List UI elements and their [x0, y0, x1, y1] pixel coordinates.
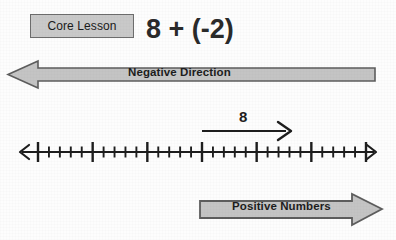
core-lesson-label: Core Lesson: [47, 19, 116, 33]
jump-arrow-label: 8: [239, 108, 247, 125]
number-line: -15-10-5051015: [0, 112, 396, 178]
core-lesson-badge: Core Lesson: [30, 14, 134, 38]
expression-text: 8 + (-2): [146, 13, 234, 45]
lesson-illustration: Core Lesson 8 + (-2) Negative Direction …: [0, 0, 396, 240]
positive-numbers-label: Positive Numbers: [232, 200, 331, 212]
number-line-axis: [0, 112, 396, 178]
negative-direction-label: Negative Direction: [128, 66, 231, 78]
